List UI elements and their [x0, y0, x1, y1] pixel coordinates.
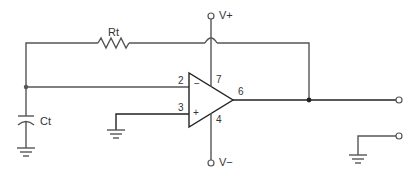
output-ground-wire	[358, 136, 396, 155]
ground-terminal-icon	[396, 133, 402, 139]
schematic-drawing	[0, 0, 419, 179]
ground-icon-output	[349, 155, 367, 163]
capacitor-ct-symbol	[18, 87, 34, 148]
pin-6-label: 6	[238, 87, 244, 97]
opamp-minus-sign: −	[194, 79, 200, 89]
non-inverting-input-wire	[116, 114, 189, 130]
resistor-rt-symbol	[98, 38, 129, 48]
v-minus-label: V−	[219, 157, 233, 168]
ground-icon-capacitor	[17, 148, 35, 156]
pin-4-label: 4	[216, 115, 222, 125]
pin-3-label: 3	[178, 103, 184, 113]
pin-2-label: 2	[178, 76, 184, 86]
v-plus-terminal-icon	[208, 13, 214, 19]
output-terminal-icon	[396, 97, 402, 103]
pin-7-label: 7	[216, 75, 222, 85]
resistor-label: Rt	[108, 27, 119, 38]
ground-icon-noninverting	[107, 130, 125, 138]
junction-node-output	[307, 98, 312, 103]
v-plus-label: V+	[219, 10, 233, 21]
opamp-plus-sign: +	[193, 108, 199, 118]
circuit-diagram: Rt Ct V+ V− 2 3 7 4 6 − +	[0, 0, 419, 179]
v-minus-terminal-icon	[208, 160, 214, 166]
capacitor-label: Ct	[40, 116, 51, 127]
feedback-wire-top	[26, 38, 309, 100]
